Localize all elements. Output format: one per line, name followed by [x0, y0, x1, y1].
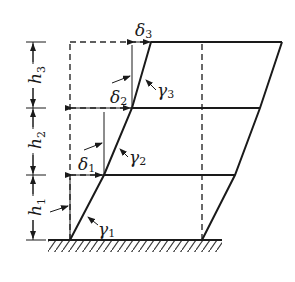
gamma-3-arrow [146, 80, 156, 90]
gamma-3-label: γ3 [157, 80, 174, 101]
height-label-h1: h1 [25, 196, 48, 220]
gamma-1-arrow [88, 217, 98, 225]
undeformed-frame [70, 42, 202, 240]
delta-2-leader [84, 143, 102, 150]
drift-reference-lines [70, 45, 132, 240]
delta-3-label: δ3 [135, 20, 152, 41]
height-label-h3: h3 [25, 64, 48, 88]
gamma-1-label: γ1 [98, 219, 115, 240]
left-column-deformed [70, 42, 151, 240]
delta-2-label: δ2 [110, 87, 127, 108]
delta-3-leader [112, 76, 130, 83]
delta-1-leader [50, 206, 68, 212]
gamma-2-label: γ2 [129, 147, 146, 168]
frame-deformation-diagram: h3 h2 h1 δ3 δ2 δ1 γ3 γ2 γ1 [0, 0, 295, 282]
drift-dimensions [50, 42, 150, 212]
gamma-2-arrow [120, 149, 128, 157]
height-label-h2: h2 [25, 129, 48, 153]
delta-1-label: δ1 [78, 154, 95, 175]
ground-support [48, 240, 222, 252]
right-column-deformed [202, 42, 282, 240]
deformed-frame [70, 42, 282, 240]
